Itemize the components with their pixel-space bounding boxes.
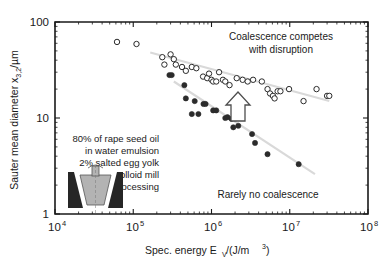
data-point — [286, 86, 291, 91]
data-point — [189, 111, 194, 116]
data-point — [206, 71, 211, 76]
svg-text:4: 4 — [62, 219, 66, 228]
svg-text:Spec. energy E: Spec. energy E — [145, 244, 217, 256]
data-point — [216, 70, 221, 75]
y-axis-title-unit: /µm — [8, 50, 20, 68]
data-point — [114, 39, 119, 44]
x-tick-label-1e7: 10 7 — [282, 219, 300, 233]
rarely-no-coalescence-annotation: Rarely no coalescence — [217, 189, 319, 200]
data-point — [214, 108, 219, 113]
data-point — [134, 41, 139, 46]
y-axis-title-main: Sauter mean diameter x — [8, 77, 20, 190]
svg-text:8: 8 — [374, 219, 378, 228]
data-point — [173, 62, 178, 67]
data-point — [236, 123, 241, 128]
svg-text:Sauter mean diameter x3,2/µm: Sauter mean diameter x3,2/µm — [8, 50, 22, 190]
data-point — [245, 79, 250, 84]
x-tick-label-1e5: 10 5 — [126, 219, 144, 233]
data-point — [183, 96, 188, 101]
data-point — [227, 82, 232, 87]
chart-figure: 100 10 1 10 4 10 5 10 6 10 7 10 8 — [0, 0, 385, 264]
svg-text:6: 6 — [218, 219, 222, 228]
x-tick-label-1e6: 10 6 — [204, 219, 222, 233]
svg-text:/(J/m: /(J/m — [226, 244, 250, 256]
svg-text:): ) — [266, 244, 270, 256]
data-point — [162, 62, 167, 67]
data-point — [301, 98, 306, 103]
y-tick-label-1: 1 — [43, 208, 49, 220]
data-point — [169, 72, 174, 77]
svg-text:10: 10 — [204, 221, 217, 233]
data-point — [250, 77, 255, 82]
data-point — [203, 101, 208, 106]
data-point — [296, 162, 301, 167]
data-point — [182, 83, 187, 88]
data-point — [171, 56, 176, 61]
data-point — [183, 68, 188, 73]
scatter-plot-svg: 100 10 1 10 4 10 5 10 6 10 7 10 8 — [0, 0, 385, 264]
x-axis-title: Spec. energy E V /(J/m 3 ) — [145, 243, 270, 258]
svg-text:10: 10 — [126, 221, 139, 233]
y-tick-label-100: 100 — [30, 16, 49, 28]
x-tick-label-1e8: 10 8 — [360, 219, 378, 233]
y-tick-label-10: 10 — [36, 112, 49, 124]
inset-line-2: in water emulsion — [85, 145, 159, 156]
data-point — [252, 140, 257, 145]
data-point — [234, 75, 239, 80]
y-axis-title-sub: 3,2 — [15, 68, 22, 78]
x-tick-label-1e4: 10 4 — [48, 219, 66, 233]
svg-text:10: 10 — [282, 221, 295, 233]
data-point — [192, 99, 197, 104]
data-point — [249, 131, 254, 136]
inset-line-1: 80% of rape seed oil — [72, 133, 159, 144]
data-point — [327, 93, 332, 98]
data-point — [314, 86, 319, 91]
annotation-line-1: Coalescence competes — [229, 31, 333, 42]
data-point — [160, 54, 165, 59]
svg-text:5: 5 — [140, 219, 144, 228]
y-axis-title: Sauter mean diameter x3,2/µm — [8, 50, 22, 190]
data-point — [194, 66, 199, 71]
x-tick-labels: 10 4 10 5 10 6 10 7 10 8 — [48, 219, 378, 233]
data-point — [231, 125, 236, 130]
svg-text:10: 10 — [360, 221, 373, 233]
data-point — [278, 89, 283, 94]
data-point — [259, 79, 264, 84]
svg-text:7: 7 — [296, 219, 300, 228]
data-point — [214, 79, 219, 84]
data-point — [265, 152, 270, 157]
colloid-mill-icon — [68, 165, 123, 213]
svg-text:10: 10 — [48, 221, 61, 233]
data-point — [196, 111, 201, 116]
annotation-line-2: with disruption — [248, 44, 313, 55]
data-point — [272, 96, 277, 101]
